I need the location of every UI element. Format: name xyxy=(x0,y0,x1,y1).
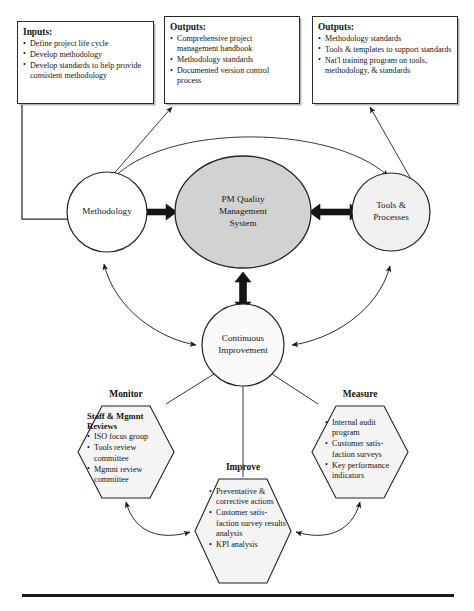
pm-quality-management-diagram: Inputs: Define project life cycle Develo… xyxy=(0,0,474,611)
hexagon-improve-list: Preventative & corrective actions Custom… xyxy=(209,487,291,550)
list-item: ISO focus group xyxy=(87,432,169,442)
connector-improvement-to-monitor xyxy=(166,374,214,404)
outputs-tools-box-title: Outputs: xyxy=(318,21,452,33)
list-item: Methodology standards xyxy=(318,34,452,44)
outputs-tools-box-list: Methodology standards Tools & templates … xyxy=(318,34,452,76)
list-item: Documented version control process xyxy=(170,66,294,87)
list-item: Customer satis- faction survey results a… xyxy=(209,508,291,539)
hexagon-content-improve: Preventative & corrective actions Custom… xyxy=(209,487,291,551)
list-item: Tools review committee xyxy=(87,443,169,464)
list-item: Nat'l training program on tools, methodo… xyxy=(318,56,452,77)
outputs-methodology-box-list: Comprehensive project management handboo… xyxy=(170,34,294,87)
outputs-methodology-box: Outputs: Comprehensive project managemen… xyxy=(164,16,300,104)
connector-monitor-improve xyxy=(126,502,190,535)
connector-tools-to-outputs xyxy=(370,107,412,181)
list-item: Methodology standards xyxy=(170,55,294,65)
hexagon-monitor-inner-title: Staff & Mgmnt Reviews xyxy=(87,411,169,431)
node-pm-quality-management-system xyxy=(175,156,311,268)
hexagon-measure-list: Internal audit program Customer satis- f… xyxy=(325,418,405,481)
list-item: Customer satis- faction surveys xyxy=(325,439,405,460)
inputs-box-list: Define project life cycle Develop method… xyxy=(23,39,148,81)
outputs-methodology-box-title: Outputs: xyxy=(170,21,294,33)
list-item: Comprehensive project management handboo… xyxy=(170,34,294,55)
hexagon-heading-improve: Improve xyxy=(203,462,283,472)
hexagon-monitor-list: ISO focus group Tools review committee M… xyxy=(87,432,169,485)
connector-tools-improvement xyxy=(292,266,390,345)
node-continuous-improvement xyxy=(202,304,284,386)
outputs-tools-box: Outputs: Methodology standards Tools & t… xyxy=(312,16,458,104)
list-item: Tools & templates to support standards xyxy=(318,45,452,55)
hexagon-heading-measure: Measure xyxy=(320,389,400,399)
inputs-box: Inputs: Define project life cycle Develo… xyxy=(17,21,154,104)
list-item: Develop methodology xyxy=(23,50,148,60)
hexagon-content-measure: Internal audit program Customer satis- f… xyxy=(325,418,405,482)
inputs-box-title: Inputs: xyxy=(23,26,148,38)
connector-improvement-to-measure xyxy=(272,374,318,404)
list-item: Key performance indicators xyxy=(325,461,405,482)
hexagon-heading-monitor: Monitor xyxy=(86,389,166,399)
bottom-divider xyxy=(22,594,454,597)
connector-measure-improve xyxy=(296,502,360,535)
list-item: Mgmnt review committee xyxy=(87,465,169,486)
list-item: KPI analysis xyxy=(209,540,291,550)
connector-methodology-improvement xyxy=(104,264,196,345)
list-item: Internal audit program xyxy=(325,418,405,439)
node-methodology xyxy=(67,172,147,252)
list-item: Preventative & corrective actions xyxy=(209,487,291,508)
hexagon-content-monitor: Staff & Mgmnt Reviews ISO focus group To… xyxy=(87,411,169,486)
node-tools-and-processes xyxy=(352,173,430,251)
list-item: Define project life cycle xyxy=(23,39,148,49)
list-item: Develop standards to help provide consis… xyxy=(23,61,148,82)
